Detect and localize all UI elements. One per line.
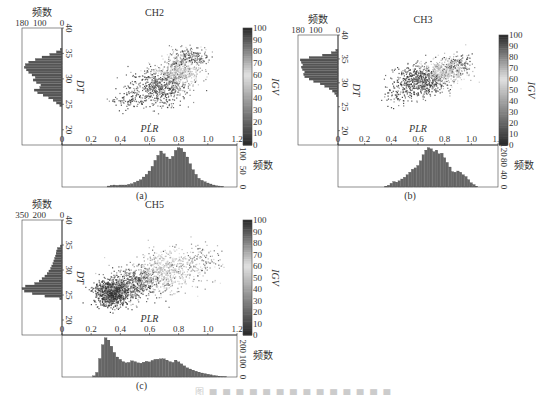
scatter-point bbox=[166, 263, 167, 264]
scatter-point bbox=[193, 67, 194, 68]
scatter-point bbox=[141, 286, 142, 287]
scatter-point bbox=[182, 70, 183, 71]
scatter-point bbox=[132, 95, 133, 96]
scatter-point bbox=[173, 267, 174, 268]
scatter-point bbox=[201, 257, 202, 258]
scatter-point bbox=[209, 60, 210, 61]
scatter-point bbox=[445, 79, 446, 80]
bottom-histogram-bar bbox=[180, 148, 183, 187]
scatter-point bbox=[101, 281, 102, 282]
scatter-point bbox=[135, 292, 136, 293]
scatter-point bbox=[171, 73, 172, 74]
scatter-point bbox=[182, 278, 183, 279]
scatter-point bbox=[205, 261, 206, 262]
bottom-histogram-bar bbox=[169, 362, 172, 377]
scatter-point bbox=[127, 295, 128, 296]
bottom-histogram-bar bbox=[186, 157, 189, 187]
scatter-point bbox=[411, 101, 412, 102]
scatter-point bbox=[417, 88, 418, 89]
scatter-point bbox=[176, 244, 177, 245]
bottom-histogram-bar bbox=[224, 377, 227, 378]
scatter-point bbox=[188, 66, 189, 67]
scatter-point bbox=[170, 294, 171, 295]
scatter-point bbox=[180, 101, 181, 102]
scatter-point bbox=[222, 264, 223, 265]
scatter-point bbox=[123, 296, 124, 297]
scatter-point bbox=[106, 305, 107, 306]
scatter-point bbox=[197, 59, 198, 60]
left-histogram-bar bbox=[56, 253, 62, 255]
scatter-point bbox=[127, 104, 128, 105]
scatter-point bbox=[172, 92, 173, 93]
scatter-point bbox=[432, 83, 433, 84]
scatter-point bbox=[109, 101, 110, 102]
scatter-point bbox=[118, 302, 119, 303]
scatter-point bbox=[407, 77, 408, 78]
scatter-point bbox=[164, 286, 165, 287]
scatter-point bbox=[429, 82, 430, 83]
scatter-point bbox=[415, 68, 416, 69]
scatter-point bbox=[190, 271, 191, 272]
scatter-point bbox=[148, 277, 149, 278]
scatter-point bbox=[217, 245, 218, 246]
scatter-point bbox=[131, 99, 132, 100]
scatter-point bbox=[142, 273, 143, 274]
scatter-point bbox=[439, 83, 440, 84]
scatter-point bbox=[155, 86, 156, 87]
scatter-point bbox=[174, 85, 175, 86]
scatter-point bbox=[188, 77, 189, 78]
scatter-point bbox=[198, 84, 199, 85]
scatter-point bbox=[186, 267, 187, 268]
left-histogram-tick-label: 0 bbox=[60, 18, 65, 28]
scatter-point bbox=[119, 293, 120, 294]
scatter-point bbox=[393, 87, 394, 88]
scatter-point bbox=[174, 274, 175, 275]
scatter-point bbox=[453, 64, 454, 65]
scatter-point bbox=[455, 79, 456, 80]
scatter-point bbox=[165, 76, 166, 77]
scatter-point bbox=[464, 70, 465, 71]
scatter-point bbox=[155, 76, 156, 77]
scatter-point bbox=[104, 257, 105, 258]
scatter-point bbox=[129, 285, 130, 286]
left-histogram-bar bbox=[36, 81, 62, 83]
scatter-point bbox=[195, 82, 196, 83]
scatter-point bbox=[441, 65, 442, 66]
scatter-point bbox=[182, 59, 183, 60]
scatter-point bbox=[143, 272, 144, 273]
scatter-point bbox=[392, 83, 393, 84]
scatter-point bbox=[192, 258, 193, 259]
x-tick-label: 0.2 bbox=[86, 134, 97, 144]
scatter-point bbox=[157, 260, 158, 261]
bottom-histogram-bar bbox=[131, 361, 134, 377]
scatter-point bbox=[114, 99, 115, 100]
scatter-point bbox=[134, 276, 135, 277]
scatter-point bbox=[139, 297, 140, 298]
scatter-point bbox=[188, 274, 189, 275]
scatter-point bbox=[109, 265, 110, 266]
scatter-point bbox=[189, 265, 190, 266]
scatter-point bbox=[165, 86, 166, 87]
bottom-histogram-tick-label: 120 bbox=[499, 143, 509, 157]
scatter-point bbox=[385, 94, 386, 95]
scatter-point bbox=[100, 304, 101, 305]
scatter-point bbox=[164, 66, 165, 67]
scatter-point bbox=[112, 309, 113, 310]
left-histogram-bar bbox=[35, 283, 62, 285]
scatter-point bbox=[111, 297, 112, 298]
scatter-point bbox=[433, 67, 434, 68]
scatter-point bbox=[131, 91, 132, 92]
scatter-point bbox=[125, 101, 126, 102]
scatter-point bbox=[148, 95, 149, 96]
scatter-point bbox=[402, 70, 403, 71]
scatter-point bbox=[190, 252, 191, 253]
scatter-point bbox=[414, 91, 415, 92]
scatter-point bbox=[129, 273, 130, 274]
scatter-point bbox=[190, 64, 191, 65]
scatter-point bbox=[145, 97, 146, 98]
scatter-point bbox=[417, 66, 418, 67]
scatter-point bbox=[425, 68, 426, 69]
scatter-point bbox=[107, 299, 108, 300]
scatter-point bbox=[411, 84, 412, 85]
scatter-point bbox=[221, 266, 222, 267]
